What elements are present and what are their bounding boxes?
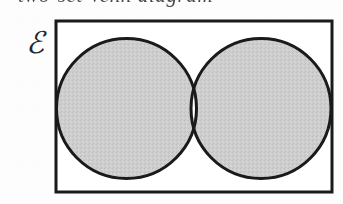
- venn-diagram-graphic: [0, 0, 343, 204]
- figure-canvas: two-set Venn diagram ℰ: [0, 0, 343, 204]
